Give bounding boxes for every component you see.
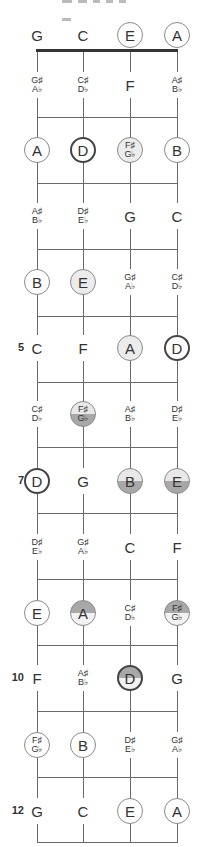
fret-line-11 [37, 777, 178, 778]
note-marker: D♯E♭ [70, 203, 96, 229]
note-marker: E [117, 798, 143, 824]
note-marker: A [24, 137, 50, 163]
note-marker: G♯A♭ [70, 534, 96, 560]
note-marker: C♯D♭ [117, 600, 143, 626]
note-label: D [172, 341, 183, 356]
note-marker: E [164, 468, 190, 494]
note-label: B [78, 738, 88, 753]
note-marker: A [164, 22, 190, 48]
note-label-flat: B♭ [125, 414, 135, 423]
note-marker: A [70, 600, 96, 626]
note-marker: G [24, 22, 50, 48]
fret-line-5 [37, 382, 178, 383]
note-label: G [77, 474, 89, 489]
note-marker: E [70, 269, 96, 295]
note-marker: A♯B♭ [117, 401, 143, 427]
note-label: F [125, 78, 134, 93]
note-label: A [172, 804, 182, 819]
fret-line-2 [37, 183, 178, 184]
note-marker: D♯E♭ [24, 534, 50, 560]
note-label-flat: D♭ [172, 282, 183, 291]
note-marker: F [164, 534, 190, 560]
note-label: F [172, 540, 181, 555]
note-label: C [78, 28, 89, 43]
fret-line-9 [37, 645, 178, 646]
fret-line-7 [37, 513, 178, 514]
note-marker: D [70, 137, 96, 163]
note-label-flat: E♭ [125, 745, 135, 754]
note-marker: F [117, 72, 143, 98]
note-marker: A [164, 798, 190, 824]
note-label-flat: A♭ [78, 547, 88, 556]
note-label: E [78, 275, 88, 290]
note-label: E [125, 28, 135, 43]
fret-number-12: 12 [6, 804, 24, 816]
note-label: B [172, 143, 182, 158]
note-marker: F♯G♭ [117, 137, 143, 163]
note-label: C [125, 540, 136, 555]
note-marker: G♯A♭ [117, 269, 143, 295]
note-label-flat: G♭ [31, 745, 42, 754]
note-marker: C [70, 22, 96, 48]
fret-number-10: 10 [6, 671, 24, 683]
note-marker: F♯G♭ [70, 401, 96, 427]
note-label: C [172, 209, 183, 224]
note-marker: D [164, 335, 190, 361]
fret-line-6 [37, 447, 178, 448]
note-marker: F [24, 665, 50, 691]
note-label-flat: A♭ [125, 282, 135, 291]
note-marker: G [164, 665, 190, 691]
note-label: G [171, 671, 183, 686]
note-marker: E [117, 22, 143, 48]
note-label: E [172, 474, 182, 489]
note-label: G [31, 28, 43, 43]
note-marker: A [117, 335, 143, 361]
note-marker: F [70, 335, 96, 361]
note-marker: C♯D♭ [164, 269, 190, 295]
note-label: F [32, 671, 41, 686]
note-label-flat: A♭ [32, 85, 42, 94]
note-label-flat: E♭ [172, 414, 182, 423]
note-label-flat: D♭ [78, 85, 89, 94]
note-marker: B [70, 732, 96, 758]
note-label-flat: G♭ [77, 414, 88, 423]
note-marker: C [24, 335, 50, 361]
note-marker: D [117, 665, 143, 691]
note-marker: G♯A♭ [24, 72, 50, 98]
note-marker: C♯D♭ [24, 401, 50, 427]
note-label-flat: G♭ [124, 150, 135, 159]
note-label: A [78, 606, 88, 621]
note-label: D [78, 143, 89, 158]
fret-line-10 [37, 711, 178, 712]
fret-line-12 [37, 842, 178, 843]
note-label: D [32, 474, 43, 489]
note-marker: B [24, 269, 50, 295]
note-marker: F♯G♭ [164, 600, 190, 626]
note-marker: A♯B♭ [24, 203, 50, 229]
note-marker: F♯G♭ [24, 732, 50, 758]
fret-number-5: 5 [6, 341, 24, 353]
note-label-flat: G♭ [171, 613, 182, 622]
note-marker: G [70, 468, 96, 494]
note-marker: D♯E♭ [117, 732, 143, 758]
note-label: G [124, 209, 136, 224]
note-label: F [78, 341, 87, 356]
note-marker: D♯E♭ [164, 401, 190, 427]
note-label: A [32, 143, 42, 158]
fret-line-8 [37, 579, 178, 580]
note-label-flat: E♭ [78, 216, 88, 225]
note-marker: G [117, 203, 143, 229]
note-label-flat: B♭ [172, 85, 182, 94]
note-label: A [172, 28, 182, 43]
fretboard-diagram: 571012GCEAG♯A♭C♯D♭FA♯B♭ADF♯G♭BA♯B♭D♯E♭GC… [0, 0, 203, 847]
note-label-flat: B♭ [78, 678, 88, 687]
note-marker: C [70, 798, 96, 824]
note-label-flat: E♭ [32, 547, 42, 556]
note-marker: A♯B♭ [164, 72, 190, 98]
note-marker: G♯A♭ [164, 732, 190, 758]
note-label: B [32, 275, 42, 290]
note-marker: E [24, 600, 50, 626]
note-label: C [78, 804, 89, 819]
note-marker: A♯B♭ [70, 665, 96, 691]
nut-line [36, 49, 178, 52]
